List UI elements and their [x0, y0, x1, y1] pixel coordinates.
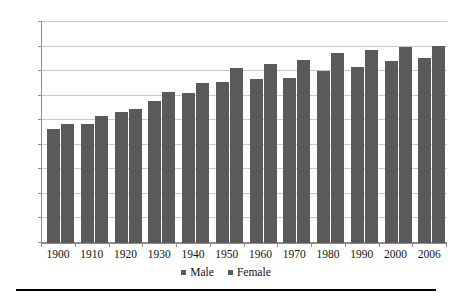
legend-swatch-icon — [181, 270, 186, 275]
bar-group — [350, 22, 384, 243]
bar-group — [249, 22, 283, 243]
bar-male — [115, 112, 128, 243]
bar-female — [399, 47, 412, 243]
legend-label: Female — [237, 266, 271, 278]
bar-male — [216, 82, 229, 243]
x-tick-mark — [244, 243, 245, 247]
bar-male — [351, 67, 364, 243]
legend-entry: Female — [228, 266, 271, 278]
bar-group — [316, 22, 350, 243]
x-tick-mark — [75, 243, 76, 247]
bar-female — [129, 109, 142, 243]
bar-group — [215, 22, 249, 243]
bar-group — [384, 22, 418, 243]
x-tick-mark — [210, 243, 211, 247]
bar-group — [46, 22, 80, 243]
bar-male — [182, 93, 195, 243]
bar-female — [162, 92, 175, 243]
plot-area: 0102030405060708090 — [41, 22, 447, 244]
x-tick-mark — [345, 243, 346, 247]
bar-male — [148, 101, 161, 243]
bar-male — [418, 58, 431, 243]
bar-group — [80, 22, 114, 243]
bar-female — [432, 46, 445, 243]
x-tick-mark — [176, 243, 177, 247]
bar-female — [95, 116, 108, 243]
bar-group — [147, 22, 181, 243]
bar-female — [196, 83, 209, 243]
bar-female — [365, 50, 378, 243]
bar-male — [250, 79, 263, 243]
bars-layer — [42, 22, 447, 243]
bar-male — [317, 71, 330, 243]
bar-female — [331, 53, 344, 243]
x-tick-mark — [446, 243, 447, 247]
legend-label: Male — [190, 266, 214, 278]
bar-group — [181, 22, 215, 243]
legend-entry: Male — [181, 266, 214, 278]
bar-male — [47, 129, 60, 243]
footer-divider — [16, 289, 436, 291]
x-tick-mark — [142, 243, 143, 247]
bar-male — [81, 124, 94, 243]
bar-chart: 0102030405060708090 19001910192019301940… — [0, 0, 452, 300]
x-tick-mark — [41, 243, 42, 247]
x-tick-label: 2006 — [409, 248, 449, 260]
bar-group — [282, 22, 316, 243]
chart-legend: MaleFemale — [0, 266, 452, 278]
x-tick-mark — [109, 243, 110, 247]
bar-group — [417, 22, 451, 243]
x-tick-mark — [277, 243, 278, 247]
x-tick-mark — [311, 243, 312, 247]
legend-swatch-icon — [228, 270, 233, 275]
x-tick-mark — [379, 243, 380, 247]
bar-female — [61, 124, 74, 243]
bar-male — [385, 61, 398, 243]
bar-group — [114, 22, 148, 243]
x-tick-mark — [412, 243, 413, 247]
bar-female — [297, 60, 310, 243]
bar-male — [283, 78, 296, 243]
x-axis-ticks: 1900191019201930194019501960197019801990… — [41, 243, 446, 265]
bar-female — [264, 64, 277, 244]
bar-female — [230, 68, 243, 243]
